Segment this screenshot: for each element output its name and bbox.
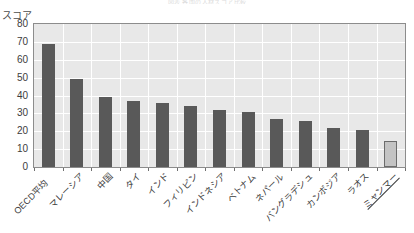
bar-ベトナム (242, 112, 255, 167)
bar-ネパール (270, 119, 283, 167)
bar-マレーシア (70, 79, 83, 167)
bar-フィリピン (184, 106, 197, 167)
y-tick-label-60: 60 (0, 55, 28, 65)
bar-中国 (99, 97, 112, 167)
y-tick-label-10: 10 (0, 144, 28, 154)
x-tick-label-ベトナム: ベトナム (225, 171, 258, 204)
x-tick-label-中国: 中国 (95, 171, 115, 191)
x-tick-label-インド: インド (145, 171, 171, 197)
plot-area (33, 23, 406, 168)
x-tick-label-ラオス: ラオス (345, 171, 371, 197)
x-tick-label-タイ: タイ (123, 171, 143, 191)
bar-カンボジア (327, 128, 340, 167)
y-tick-label-80: 80 (0, 19, 28, 29)
bar-ラオス (356, 130, 369, 168)
x-tick-label-マレーシア: マレーシア (47, 171, 86, 210)
x-axis-tick-labels: OECD平均マレーシア中国タイインドフィリピンインドネシアベトナムネパールバング… (0, 168, 414, 233)
y-tick-label-20: 20 (0, 126, 28, 136)
bar-タイ (127, 101, 140, 167)
bars-layer (34, 24, 405, 167)
y-tick-label-40: 40 (0, 91, 28, 101)
bar-chart-figure: 図表 各国の人材スコア比較 スコア 01020304050607080 OECD… (0, 0, 414, 233)
figure-top-caption: 図表 各国の人材スコア比較 (0, 0, 414, 4)
bar-バングラデシュ (299, 121, 312, 168)
bar-ミャンマー (384, 141, 397, 167)
bar-OECD平均 (42, 44, 55, 167)
y-tick-label-30: 30 (0, 108, 28, 118)
bar-インド (156, 103, 169, 167)
bar-インドネシア (213, 110, 226, 167)
y-tick-label-50: 50 (0, 73, 28, 83)
y-tick-label-70: 70 (0, 37, 28, 47)
x-tick-label-OECD平均: OECD平均 (12, 178, 50, 216)
